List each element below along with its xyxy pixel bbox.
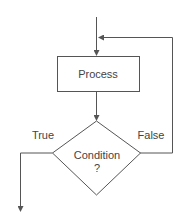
condition-label-line2: ?	[94, 162, 100, 174]
true-exit-arrow	[21, 153, 53, 211]
condition-node: Condition ?	[53, 121, 141, 195]
condition-label-line1: Condition	[74, 149, 120, 161]
process-label: Process	[78, 68, 118, 80]
process-node: Process	[58, 57, 140, 92]
flowchart-canvas: Process Condition ? True False	[0, 0, 180, 217]
false-branch-label: False	[138, 129, 165, 141]
true-branch-label: True	[32, 129, 54, 141]
